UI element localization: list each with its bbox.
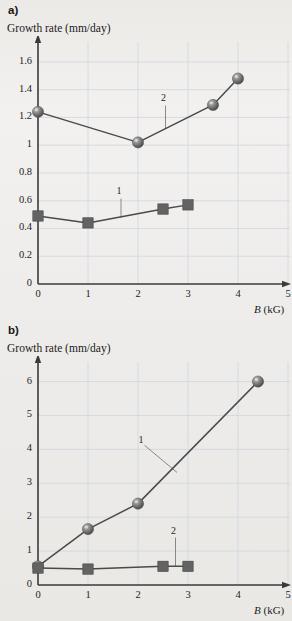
y-tick-label: 1 — [0, 544, 32, 555]
x-tick-label: 1 — [78, 589, 98, 600]
annotation-leaders — [145, 445, 178, 566]
x-tick-label: 0 — [28, 288, 48, 299]
sphere-highlight — [85, 526, 88, 529]
y-tick-label: 0.6 — [0, 194, 32, 205]
sphere-highlight — [210, 102, 213, 105]
sphere-highlight — [235, 75, 238, 78]
y-tick-label: 0.4 — [0, 221, 32, 232]
series-2 — [33, 561, 193, 574]
x-axis-unit: (kG) — [261, 303, 285, 315]
x-axis-unit: (kG) — [261, 604, 285, 616]
x-tick-label: 5 — [278, 288, 292, 299]
x-axis-symbol: B — [254, 303, 261, 315]
data-point-sphere — [232, 73, 243, 84]
gridlines — [38, 362, 290, 585]
y-tick-label: 0 — [0, 277, 32, 288]
series-annotation-2: 2 — [161, 92, 166, 103]
data-point-square — [83, 218, 93, 228]
y-tick-label: 4 — [0, 442, 32, 453]
chart-svg — [0, 356, 292, 609]
x-tick-label: 2 — [128, 589, 148, 600]
data-point-sphere — [207, 99, 218, 110]
y-tick-label: 0 — [0, 578, 32, 589]
data-point-square — [33, 211, 43, 221]
y-tick-label: 1.4 — [0, 83, 32, 94]
data-point-square — [83, 564, 93, 574]
panel-b-letter: b) — [8, 324, 19, 336]
series-line — [38, 382, 258, 567]
y-tick-label: 5 — [0, 408, 32, 419]
sphere-highlight — [255, 378, 258, 381]
panel-a: a) Growth rate (mm/day) 00.20.40.60.811.… — [0, 0, 292, 320]
x-tick-label: 5 — [278, 589, 292, 600]
panel-b: b) Growth rate (mm/day) 012345601234512 … — [0, 320, 292, 621]
y-tick-label: 1.6 — [0, 55, 32, 66]
data-point-square — [183, 561, 193, 571]
y-tick-label: 6 — [0, 375, 32, 386]
data-point-sphere — [252, 376, 263, 387]
data-point-sphere — [32, 106, 43, 117]
chart-svg — [0, 36, 292, 308]
panel-b-plot-area: 012345601234512 — [0, 356, 292, 609]
data-point-sphere — [132, 498, 143, 509]
x-axis-symbol: B — [254, 604, 261, 616]
x-tick-label: 4 — [228, 589, 248, 600]
series-annotation-1: 1 — [139, 434, 144, 445]
x-tick-label: 4 — [228, 288, 248, 299]
gridlines — [38, 42, 290, 284]
x-tick-label: 1 — [78, 288, 98, 299]
y-tick-label: 1.2 — [0, 110, 32, 121]
panel-b-x-axis-label: B (kG) — [254, 604, 284, 616]
y-tick-label: 0.8 — [0, 166, 32, 177]
data-point-square — [158, 561, 168, 571]
y-tick-label: 0.2 — [0, 249, 32, 260]
panel-a-plot-area: 00.20.40.60.811.21.41.601234512 — [0, 36, 292, 308]
x-tick-label: 0 — [28, 589, 48, 600]
series-1 — [32, 376, 263, 572]
axes — [35, 36, 291, 287]
axes — [35, 356, 291, 588]
series-annotation-1: 1 — [117, 185, 122, 196]
series-annotation-2: 2 — [171, 525, 176, 536]
y-tick-label: 2 — [0, 510, 32, 521]
data-point-square — [158, 204, 168, 214]
x-tick-label: 2 — [128, 288, 148, 299]
series-1 — [33, 200, 193, 228]
sphere-highlight — [135, 139, 138, 142]
x-tick-label: 3 — [178, 288, 198, 299]
panel-a-letter: a) — [8, 4, 18, 16]
y-tick-label: 1 — [0, 138, 32, 149]
sphere-highlight — [135, 500, 138, 503]
figure-growth-rate-vs-magnetic-field: a) Growth rate (mm/day) 00.20.40.60.811.… — [0, 0, 292, 621]
y-tick-label: 3 — [0, 476, 32, 487]
panel-b-y-axis-title: Growth rate (mm/day) — [7, 342, 110, 354]
sphere-highlight — [35, 109, 38, 112]
data-point-sphere — [82, 523, 93, 534]
panel-a-x-axis-label: B (kG) — [254, 303, 284, 315]
panel-a-y-axis-title: Growth rate (mm/day) — [7, 22, 110, 34]
data-point-square — [183, 200, 193, 210]
data-point-square — [33, 563, 43, 573]
data-point-sphere — [132, 137, 143, 148]
x-tick-label: 3 — [178, 589, 198, 600]
